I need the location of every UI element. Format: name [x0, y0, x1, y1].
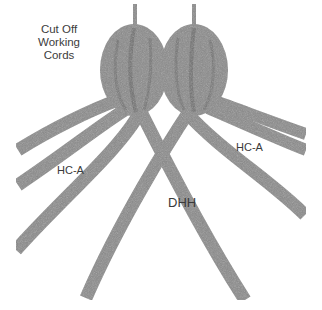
- cut-off-working-cords-label: Cut Off Working Cords: [24, 23, 94, 62]
- hc-a-left-label: HC-A: [57, 165, 84, 176]
- cut-off-line-2: Working: [24, 36, 94, 49]
- hc-a-right-label: HC-A: [236, 142, 263, 153]
- cut-off-line-1: Cut Off: [24, 23, 94, 36]
- cut-off-line-3: Cords: [24, 49, 94, 62]
- dhh-label: DHH: [168, 196, 196, 209]
